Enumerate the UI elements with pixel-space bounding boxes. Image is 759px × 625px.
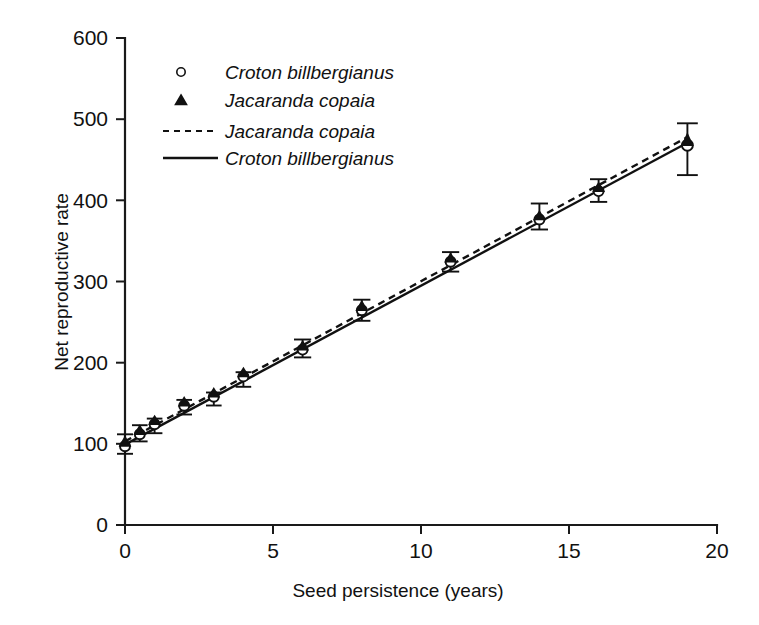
y-tick-label-100: 100 bbox=[73, 432, 108, 455]
chart-figure: 0 100 200 300 400 500 600 Net reproducti… bbox=[0, 0, 759, 625]
chart-background bbox=[0, 0, 759, 625]
x-tick-label-5: 5 bbox=[267, 539, 279, 562]
legend-label-jacaranda-marker: Jacaranda copaia bbox=[224, 90, 375, 111]
y-tick-label-200: 200 bbox=[73, 351, 108, 374]
open-circle-icon bbox=[177, 68, 185, 76]
legend-label-jacaranda-line: Jacaranda copaia bbox=[224, 121, 375, 142]
x-tick-label-0: 0 bbox=[119, 539, 131, 562]
y-axis-title: Net reproductive rate bbox=[51, 193, 72, 370]
y-tick-label-600: 600 bbox=[73, 26, 108, 49]
y-tick-label-400: 400 bbox=[73, 189, 108, 212]
legend-label-croton-line: Croton billbergianus bbox=[225, 148, 394, 169]
x-tick-label-20: 20 bbox=[705, 539, 728, 562]
y-tick-label-300: 300 bbox=[73, 270, 108, 293]
x-tick-label-10: 10 bbox=[409, 539, 432, 562]
x-axis-title: Seed persistence (years) bbox=[292, 580, 503, 601]
chart-svg: 0 100 200 300 400 500 600 Net reproducti… bbox=[0, 0, 759, 625]
legend-label-croton-marker: Croton billbergianus bbox=[225, 62, 394, 83]
y-tick-label-500: 500 bbox=[73, 107, 108, 130]
y-tick-label-0: 0 bbox=[96, 513, 108, 536]
x-tick-label-15: 15 bbox=[557, 539, 580, 562]
